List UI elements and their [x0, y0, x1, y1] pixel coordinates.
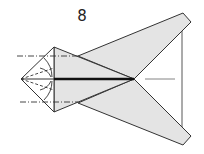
origami-diagram: 8 — [0, 0, 204, 154]
step-number: 8 — [77, 7, 87, 25]
